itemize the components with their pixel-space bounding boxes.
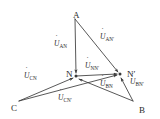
phasor-vector-canvas — [0, 0, 160, 119]
phasor-label-U-BNprime: UBN′ — [130, 78, 144, 86]
phasor-label-U-NNprime: UNN′ — [85, 62, 99, 70]
phasor-subscript-AN: AN — [59, 43, 67, 49]
phasor-label-U-BN: UBN — [100, 80, 113, 88]
phasor-label-U-CN: UCN — [24, 72, 37, 80]
phasor-label-U-CNprime: UCN′ — [58, 94, 72, 102]
phasor-subscript-ANprime: AN′ — [105, 36, 114, 42]
vertex-label-C: C — [11, 104, 17, 113]
vertex-label-N: N — [66, 70, 73, 79]
phasor-subscript-NNprime: NN′ — [90, 65, 99, 71]
phasor-diagram: A B C N N′ UAN UAN′ UNN′ UCN UCN′ UBN UB… — [0, 0, 160, 119]
phasor-subscript-BNprime: BN′ — [135, 81, 144, 87]
phasor-subscript-BN: BN — [105, 83, 112, 89]
phasor-line-U-AN — [75, 19, 76, 73]
phasor-subscript-CNprime: CN′ — [63, 97, 72, 103]
phasor-label-U-ANprime: UAN′ — [100, 33, 114, 41]
node-dot-Nprime — [119, 73, 122, 76]
phasor-line-U-NNprime — [76, 74, 117, 76]
vertex-label-B: B — [139, 106, 145, 115]
vertex-label-A: A — [73, 11, 80, 20]
phasor-label-U-AN: UAN — [54, 40, 67, 48]
node-dot-N — [75, 75, 78, 78]
phasor-subscript-CN: CN — [29, 75, 36, 81]
